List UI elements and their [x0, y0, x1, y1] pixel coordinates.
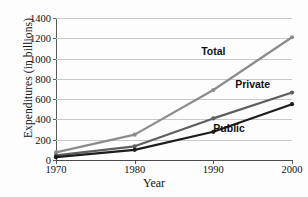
y-axis-title: Expenditures (in billions) — [22, 3, 34, 153]
data-point-public — [290, 102, 294, 106]
data-point-total — [211, 88, 215, 92]
y-tick-label: 800 — [35, 73, 51, 84]
y-tick-label: 600 — [35, 94, 51, 105]
x-axis-title: Year — [0, 176, 308, 191]
plot-area: 0200400600800100012001400 19701980199020… — [56, 18, 292, 160]
series-label-public: Public — [213, 122, 245, 134]
data-point-public — [54, 155, 58, 159]
series-label-total: Total — [201, 45, 225, 57]
y-tick-label: 1400 — [30, 13, 51, 24]
expenditures-line-chart: Expenditures (in billions) 0200400600800… — [0, 0, 308, 197]
x-tick-label: 1990 — [203, 164, 224, 175]
x-axis-line — [56, 160, 292, 161]
y-tick-label: 1200 — [30, 33, 51, 44]
series-label-private: Private — [235, 78, 270, 90]
x-tick-label: 1970 — [46, 164, 67, 175]
data-point-total — [290, 35, 294, 39]
y-tick-label: 400 — [35, 114, 51, 125]
y-tick-label: 1000 — [30, 53, 51, 64]
series-line-total — [56, 37, 292, 152]
data-point-private — [211, 116, 215, 120]
data-point-public — [133, 148, 137, 152]
series-line-private — [56, 93, 292, 156]
x-tick-label: 1980 — [124, 164, 145, 175]
data-point-private — [290, 90, 294, 94]
data-point-total — [133, 133, 137, 137]
y-tick-label: 200 — [35, 134, 51, 145]
x-tick-label: 2000 — [282, 164, 303, 175]
